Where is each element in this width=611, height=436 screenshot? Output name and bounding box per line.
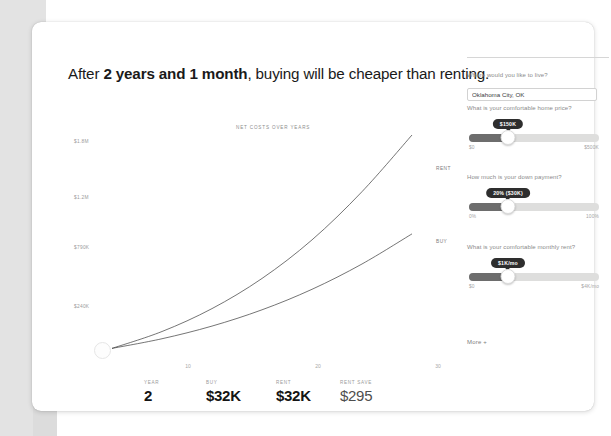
down-payment-endpoints: 0% 100% [469,214,599,219]
chart-plot-area [68,117,458,382]
down-payment-min: 0% [469,214,476,219]
stat-label: YEAR [144,380,159,385]
stat-label: BUY [206,380,241,385]
stat-rent: RENT $32K [276,380,311,404]
buy-series-label: BUY [436,239,447,244]
rent-curve [112,135,412,348]
stat-year: YEAR 2 [144,380,159,404]
headline-suffix: , buying will be cheaper than renting. [247,65,489,82]
page-title: After 2 years and 1 month, buying will b… [68,64,458,83]
rent-series-label: RENT [436,166,451,171]
home-price-thumb[interactable] [501,130,516,145]
headline-emphasis: 2 years and 1 month [103,65,247,82]
home-price-label: What is your comfortable home price? [467,104,609,113]
home-price-tooltip: $150K [493,119,523,129]
net-costs-chart: NET COSTS OVER YEARS $1.8M $1.2M $790K $… [68,117,458,382]
field-location: Where would you like to live? [467,71,609,101]
home-price-endpoints: $0 $500K [469,145,599,150]
down-payment-track[interactable] [469,203,599,211]
monthly-rent-tooltip: $1K/mo [491,258,525,268]
down-payment-label: How much is your down payment? [467,173,609,182]
more-options-link[interactable]: More + [467,339,487,345]
headline-prefix: After [68,65,103,82]
controls-sidebar: Where would you like to live? What is yo… [467,57,609,377]
calculator-card: After 2 years and 1 month, buying will b… [32,22,594,411]
page-root: After 2 years and 1 month, buying will b… [0,0,611,436]
monthly-rent-max: $4K/mo [581,284,599,289]
monthly-rent-min: $0 [469,284,475,289]
stat-rent-save: RENT SAVE $295 [340,380,372,404]
down-payment-slider[interactable]: 20% ($30K) 0% 100% [467,188,609,228]
down-payment-thumb[interactable] [501,199,516,214]
summary-stats: YEAR 2 BUY $32K RENT $32K RENT SAVE $295 [68,380,458,414]
monthly-rent-label: What is your comfortable monthly rent? [467,243,609,252]
stat-label: RENT [276,380,311,385]
stat-buy: BUY $32K [206,380,241,404]
down-payment-tooltip: 20% ($30K) [486,188,530,198]
location-label: Where would you like to live? [467,71,609,80]
monthly-rent-slider[interactable]: $1K/mo $0 $4K/mo [467,258,609,298]
stat-value: $32K [206,387,241,404]
field-monthly-rent: What is your comfortable monthly rent? $… [467,243,609,298]
sidebar-divider [467,57,609,58]
location-input[interactable] [467,88,597,101]
home-price-min: $0 [469,145,475,150]
stat-label: RENT SAVE [340,380,372,385]
monthly-rent-track[interactable] [469,273,599,281]
field-home-price: What is your comfortable home price? $15… [467,104,609,159]
home-price-slider[interactable]: $150K $0 $500K [467,119,609,159]
stat-value: $295 [340,387,372,404]
home-price-max: $500K [584,145,599,150]
stat-value: $32K [276,387,311,404]
monthly-rent-thumb[interactable] [501,269,516,284]
home-price-track[interactable] [469,134,599,142]
field-down-payment: How much is your down payment? 20% ($30K… [467,173,609,228]
monthly-rent-endpoints: $0 $4K/mo [469,284,599,289]
stat-value: 2 [144,387,159,404]
down-payment-max: 100% [586,214,599,219]
buy-curve [112,234,412,349]
chart-origin-handle[interactable] [94,342,111,359]
